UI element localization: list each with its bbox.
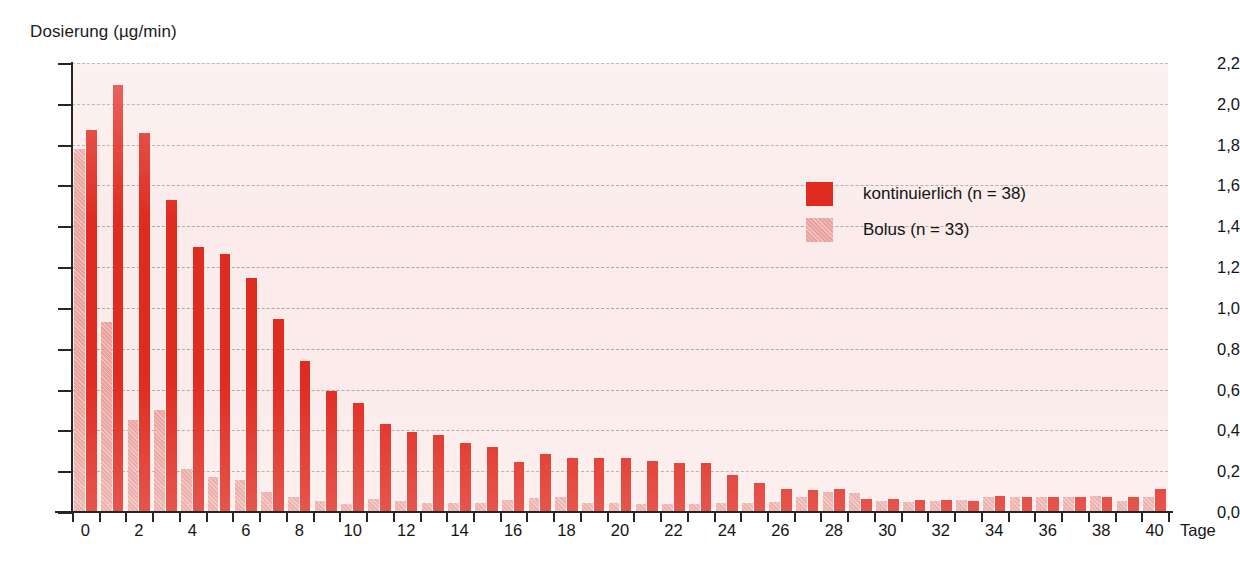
x-axis-label: 20	[611, 521, 629, 540]
gridline	[72, 63, 1168, 64]
x-axis-label: 24	[718, 521, 736, 540]
y-axis-label: 0,6	[1188, 380, 1240, 399]
x-axis-tick	[152, 513, 154, 522]
legend-item-bolus: Bolus (n = 33)	[806, 212, 1106, 248]
bar-kontinuierlich-day-13	[433, 435, 444, 512]
x-axis-tick	[1008, 513, 1010, 522]
y-axis-label: 0,8	[1188, 339, 1240, 358]
bar-kontinuierlich-day-30	[888, 499, 899, 512]
x-axis-label: 26	[771, 521, 789, 540]
y-axis-tick	[58, 226, 72, 228]
y-axis-tick	[58, 430, 72, 432]
bar-kontinuierlich-day-21	[647, 461, 658, 512]
x-axis-tick	[99, 513, 101, 522]
bar-bolus-day-17	[529, 498, 540, 512]
x-axis-tick	[500, 513, 502, 522]
x-axis-tick	[1141, 513, 1143, 522]
bar-bolus-day-7	[261, 492, 272, 512]
x-axis-label: 30	[878, 521, 896, 540]
x-axis-tick	[125, 513, 127, 522]
bar-kontinuierlich-day-11	[380, 424, 391, 512]
x-axis-label: 12	[397, 521, 415, 540]
y-axis-tick	[58, 267, 72, 269]
bar-kontinuierlich-day-39	[1128, 497, 1139, 512]
bar-kontinuierlich-day-3	[166, 200, 177, 512]
legend-item-kontinuierlich: kontinuierlich (n = 38)	[806, 176, 1106, 212]
x-axis-tick	[553, 513, 555, 522]
gridline	[72, 104, 1168, 105]
x-axis-tick	[1115, 513, 1117, 522]
bar-bolus-day-5	[208, 477, 219, 512]
bar-bolus-day-34	[983, 497, 994, 512]
x-axis-label: 36	[1039, 521, 1057, 540]
y-axis-tick	[58, 512, 72, 514]
legend-label-bolus: Bolus (n = 33)	[863, 220, 969, 240]
x-axis-tick	[366, 513, 368, 522]
gridline	[72, 349, 1168, 350]
bar-bolus-day-6	[235, 480, 246, 512]
x-axis-tick	[473, 513, 475, 522]
x-axis-tick	[660, 513, 662, 522]
bar-kontinuierlich-day-19	[594, 458, 605, 512]
y-axis-tick	[58, 145, 72, 147]
bar-kontinuierlich-day-29	[861, 499, 872, 512]
x-axis-tick	[847, 513, 849, 522]
bar-kontinuierlich-day-22	[674, 463, 685, 512]
x-axis-label: 14	[450, 521, 468, 540]
x-axis-tick	[580, 513, 582, 522]
x-axis-tick	[259, 513, 261, 522]
bar-kontinuierlich-day-15	[487, 447, 498, 512]
bar-kontinuierlich-day-36	[1048, 497, 1059, 512]
x-axis-tick	[607, 513, 609, 522]
bar-kontinuierlich-day-40	[1155, 489, 1166, 512]
x-axis-tick	[927, 513, 929, 522]
bar-kontinuierlich-day-4	[193, 247, 204, 512]
bar-kontinuierlich-day-34	[995, 496, 1006, 512]
bar-bolus-day-29	[849, 493, 860, 512]
x-axis-line	[55, 511, 1173, 513]
x-axis-tick	[1168, 513, 1170, 522]
x-axis-tick	[981, 513, 983, 522]
plot-area	[72, 63, 1168, 512]
bar-kontinuierlich-day-0	[86, 130, 97, 512]
bar-bolus-day-37	[1063, 497, 1074, 512]
x-axis-tick	[954, 513, 956, 522]
bar-kontinuierlich-day-23	[701, 463, 712, 512]
bar-kontinuierlich-day-1	[113, 85, 124, 512]
gridline	[72, 267, 1168, 268]
bar-kontinuierlich-day-10	[353, 403, 364, 512]
y-axis-tick	[58, 63, 72, 65]
bar-kontinuierlich-day-6	[246, 278, 257, 512]
x-axis-tick	[901, 513, 903, 522]
bar-kontinuierlich-day-35	[1022, 497, 1033, 512]
bar-kontinuierlich-day-18	[567, 458, 578, 512]
bar-kontinuierlich-day-38	[1102, 497, 1113, 512]
y-axis-label: 2,2	[1188, 54, 1240, 73]
x-axis-label: 8	[295, 521, 304, 540]
bar-bolus-day-36	[1036, 497, 1047, 512]
x-axis-title: Tage	[1180, 521, 1216, 540]
x-axis-label: 16	[504, 521, 522, 540]
bar-kontinuierlich-day-17	[540, 454, 551, 512]
y-axis-label: 1,6	[1188, 176, 1240, 195]
x-axis-tick	[794, 513, 796, 522]
y-axis-label: 2,0	[1188, 94, 1240, 113]
x-axis-label: 2	[134, 521, 143, 540]
x-axis-label: 4	[188, 521, 197, 540]
caption-sliver	[8, 556, 708, 566]
x-axis-tick	[313, 513, 315, 522]
x-axis-tick	[687, 513, 689, 522]
bar-bolus-day-1	[101, 322, 112, 512]
bar-bolus-day-8	[288, 497, 299, 512]
bar-bolus-day-11	[368, 499, 379, 512]
bar-kontinuierlich-day-24	[727, 475, 738, 512]
bar-bolus-day-38	[1090, 496, 1101, 512]
bar-kontinuierlich-day-28	[834, 489, 845, 512]
gridline	[72, 390, 1168, 391]
bar-kontinuierlich-day-27	[808, 490, 819, 512]
x-axis-tick	[72, 513, 74, 522]
bar-kontinuierlich-day-12	[407, 432, 418, 512]
y-axis-tick	[58, 185, 72, 187]
chart-legend: kontinuierlich (n = 38) Bolus (n = 33)	[806, 176, 1106, 248]
bar-bolus-day-28	[823, 492, 834, 512]
